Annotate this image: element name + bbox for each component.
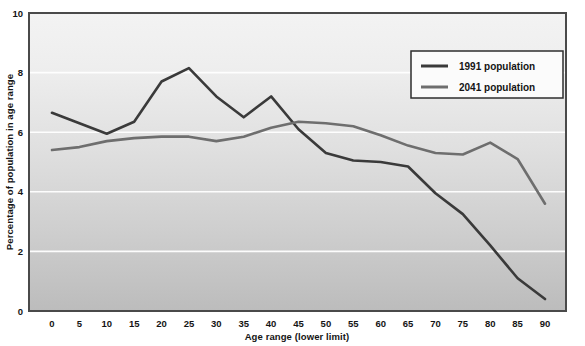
x-tick-label: 10 (101, 318, 112, 329)
x-tick-label: 35 (238, 318, 249, 329)
x-tick-label: 85 (512, 318, 523, 329)
x-tick-label: 40 (266, 318, 277, 329)
x-tick-label: 30 (211, 318, 222, 329)
x-tick-label: 50 (321, 318, 332, 329)
legend-label-1991: 1991 population (459, 61, 535, 72)
chart-figure: 051015202530354045505560657075808590 024… (0, 0, 585, 346)
x-tick-label: 70 (430, 318, 441, 329)
legend-label-2041: 2041 population (459, 82, 535, 93)
population-age-line-chart: 051015202530354045505560657075808590 024… (0, 0, 585, 346)
x-axis-title: Age range (lower limit) (245, 331, 350, 342)
y-tick-label: 0 (18, 306, 23, 317)
chart-legend: 1991 population 2041 population (411, 51, 563, 98)
x-tick-label: 0 (49, 318, 54, 329)
x-tick-label: 15 (129, 318, 140, 329)
y-tick-label: 10 (12, 8, 23, 19)
x-tick-label: 45 (293, 318, 304, 329)
x-tick-label: 75 (458, 318, 469, 329)
y-tick-label: 8 (18, 67, 23, 78)
x-tick-label: 25 (184, 318, 195, 329)
y-tick-label: 4 (18, 186, 24, 197)
x-tick-label: 20 (156, 318, 167, 329)
x-tick-label: 80 (485, 318, 496, 329)
x-tick-label: 55 (348, 318, 359, 329)
y-axis-title: Percentage of population in age range (4, 74, 15, 250)
x-tick-label: 5 (77, 318, 83, 329)
x-tick-label: 65 (403, 318, 414, 329)
x-tick-label: 90 (540, 318, 551, 329)
y-tick-label: 2 (18, 246, 23, 257)
y-tick-label: 6 (18, 127, 23, 138)
x-tick-label: 60 (375, 318, 386, 329)
